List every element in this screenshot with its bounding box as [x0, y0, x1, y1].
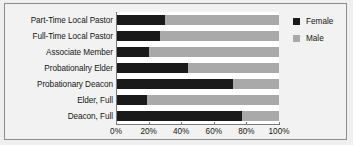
axis-tick-label: 80% — [238, 127, 254, 136]
axis-tick-label: 40% — [173, 127, 189, 136]
bar-segment-female — [116, 95, 147, 105]
bar-row — [116, 15, 279, 25]
square-swatch-male — [293, 35, 300, 42]
bar-segment-male — [160, 31, 279, 41]
bar-segment-male — [233, 79, 279, 89]
category-label: Part-Time Local Pastor — [7, 16, 113, 25]
bar-segment-female — [116, 63, 188, 73]
category-label: Elder, Full — [7, 96, 113, 105]
axis-tick-mark — [116, 122, 117, 125]
category-label: Probationary Deacon — [7, 80, 113, 89]
square-swatch-female — [293, 18, 300, 25]
bar-row — [116, 31, 279, 41]
bar-row — [116, 95, 279, 105]
axis-tick-label: 60% — [206, 127, 222, 136]
plot-area — [116, 12, 279, 124]
bar-row — [116, 79, 279, 89]
legend-item[interactable]: Female — [293, 16, 349, 28]
chart-legend: FemaleMale — [293, 16, 349, 50]
axis-tick-mark — [149, 122, 150, 125]
category-label: Deacon, Full — [7, 112, 113, 121]
category-axis-labels: Part-Time Local PastorFull-Time Local Pa… — [7, 12, 113, 124]
axis-tick-mark — [279, 122, 280, 125]
axis-tick-label: 100% — [269, 127, 290, 136]
axis-tick-label: 0% — [110, 127, 122, 136]
axis-tick-mark — [246, 122, 247, 125]
axis-tick-label: 20% — [140, 127, 156, 136]
bar-row — [116, 111, 279, 121]
legend-item[interactable]: Male — [293, 33, 349, 45]
bar-segment-female — [116, 79, 233, 89]
bar-segment-male — [149, 47, 279, 57]
bar-segment-female — [116, 31, 160, 41]
bar-row — [116, 47, 279, 57]
bar-segment-female — [116, 111, 242, 121]
bar-segment-male — [165, 15, 279, 25]
bar-segment-male — [242, 111, 279, 121]
chart-container: Part-Time Local PastorFull-Time Local Pa… — [4, 3, 347, 140]
value-axis: 0%20%40%60%80%100% — [116, 125, 281, 139]
chart-plot-region: Part-Time Local PastorFull-Time Local Pa… — [5, 4, 346, 139]
bar-segment-male — [188, 63, 279, 73]
category-label: Full-Time Local Pastor — [7, 32, 113, 41]
legend-label: Male — [306, 33, 324, 44]
bar-row — [116, 63, 279, 73]
axis-tick-mark — [214, 122, 215, 125]
bar-segment-male — [147, 95, 279, 105]
category-label: Associate Member — [7, 48, 113, 57]
bar-segment-female — [116, 47, 149, 57]
category-label: Probationalry Elder — [7, 64, 113, 73]
bar-segment-female — [116, 15, 165, 25]
axis-tick-mark — [181, 122, 182, 125]
legend-label: Female — [306, 16, 333, 27]
